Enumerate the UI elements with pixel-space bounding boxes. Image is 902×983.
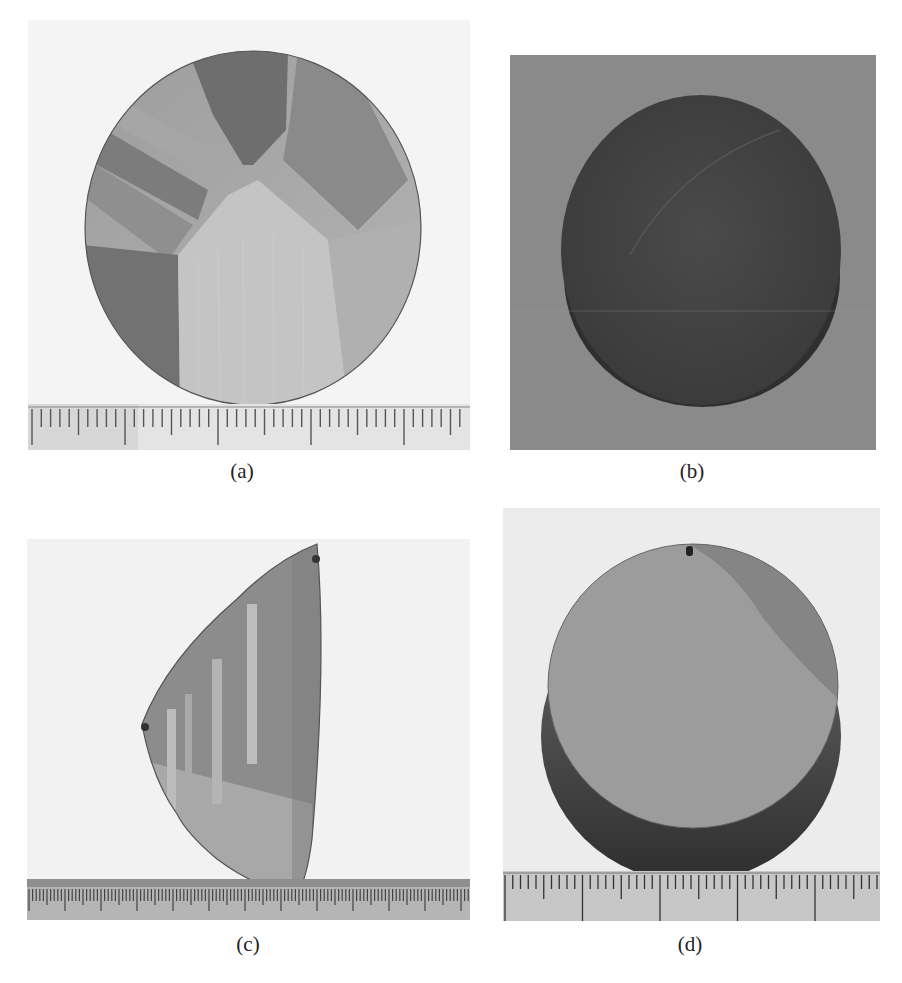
ruler-c: [27, 879, 470, 920]
fragment-photo-c: [27, 539, 470, 920]
figure-panel-d: [503, 508, 880, 921]
figure-panel-b: [510, 55, 876, 450]
wafer-photo-a: [28, 20, 470, 450]
ingot-photo-b: [510, 55, 876, 450]
ruler-d: [503, 871, 880, 921]
caption-c: (c): [218, 932, 278, 957]
caption-a: (a): [212, 459, 272, 484]
disk-photo-d: [503, 508, 880, 921]
caption-d: (d): [660, 932, 720, 957]
ruler-a: [28, 404, 470, 450]
figure-panel-a: [28, 20, 470, 450]
figure-panel-c: [27, 539, 470, 920]
caption-b: (b): [662, 459, 722, 484]
